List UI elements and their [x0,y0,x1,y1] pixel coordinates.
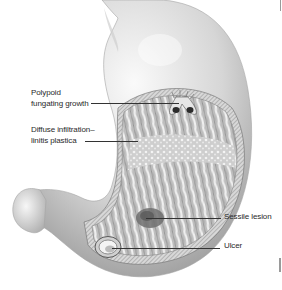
label-diffuse-line1: Diffuse infiltration– [31,124,95,135]
edge-mark-top [280,0,281,11]
label-polypoid: Polypoid fungating growth [31,87,89,109]
label-ulcer-line1: Ulcer [224,240,242,251]
duodenum [13,189,46,233]
leader-ulcer [112,248,220,249]
label-polypoid-line1: Polypoid [31,87,89,98]
leader-diffuse [85,141,138,142]
label-sessile-line1: Sessile lesion [224,211,272,222]
label-diffuse: Diffuse infiltration– linitis plastica [31,124,95,146]
label-sessile: Sessile lesion [224,211,272,222]
leader-polypoid [91,103,179,104]
label-ulcer: Ulcer [224,240,242,251]
leader-sessile [146,218,221,219]
stomach-diagram: Polypoid fungating growth Diffuse infilt… [0,0,282,290]
label-polypoid-line2: fungating growth [31,98,89,109]
ulcer-region [95,237,121,258]
edge-mark-bottom [279,258,281,272]
